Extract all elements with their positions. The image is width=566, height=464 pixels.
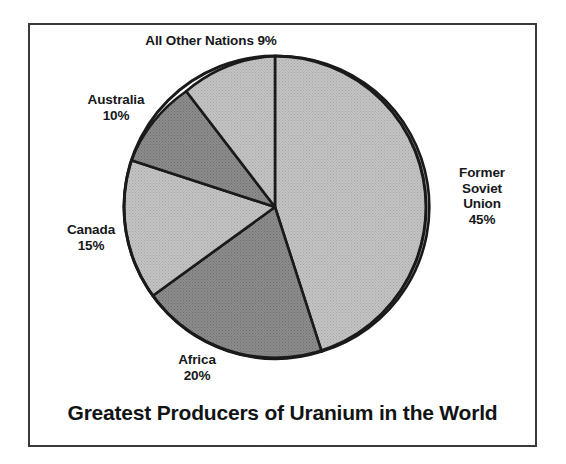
pie-label-former-soviet-union: Former Soviet Union 45% bbox=[435, 165, 529, 227]
pie-label-canada: Canada 15% bbox=[32, 222, 150, 253]
pie-label-africa: Africa 20% bbox=[134, 352, 260, 383]
pie-chart-figure: All Other Nations 9% Australia 10% Canad… bbox=[0, 0, 566, 464]
pie-label-australia: Australia 10% bbox=[55, 92, 177, 123]
pie-label-all-other-nations: All Other Nations 9% bbox=[101, 33, 321, 49]
chart-title: Greatest Producers of Uranium in the Wor… bbox=[28, 401, 537, 425]
